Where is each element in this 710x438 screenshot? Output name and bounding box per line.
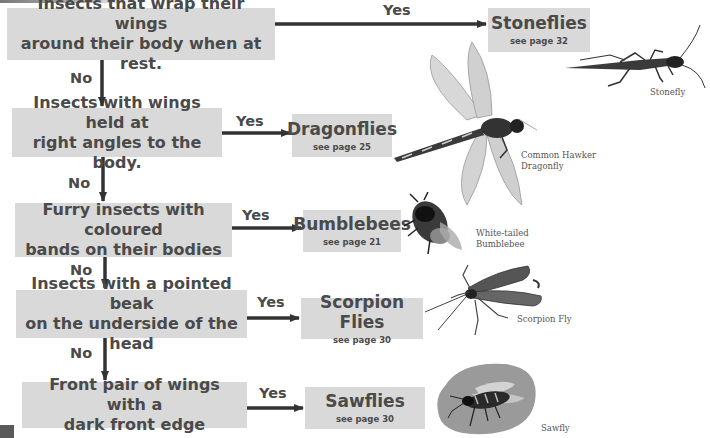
bumblebee-caption-line2: Bumblebee (476, 239, 529, 250)
answer-box-scorpion-flies: Scorpion Flies see page 30 (301, 298, 423, 339)
question-2-line1: Insects with wings held at (18, 93, 216, 133)
question-box-2: Insects with wings held at right angles … (12, 108, 222, 157)
sawfly-illustration (430, 356, 540, 436)
answer-page-ref: see page 30 (333, 334, 391, 346)
bumblebee-caption: White-tailed Bumblebee (476, 228, 529, 250)
scorpion-fly-illustration (423, 260, 548, 340)
yes-label-2: Yes (236, 113, 264, 129)
sawfly-caption: Sawfly (541, 423, 570, 434)
answer-title: Dragonflies (287, 119, 397, 139)
question-box-3: Furry insects with coloured bands on the… (15, 203, 232, 257)
question-box-1: Insects that wrap their wings around the… (7, 8, 275, 60)
stonefly-illustration (560, 20, 710, 100)
yes-label-3: Yes (242, 207, 270, 223)
no-label-4: No (70, 345, 92, 361)
answer-title: Scorpion Flies (301, 292, 423, 332)
scorpion-fly-caption: Scorpion Fly (517, 314, 572, 325)
question-3-line2: bands on their bodies (25, 240, 222, 260)
dragonfly-illustration (392, 40, 542, 210)
answer-page-ref: see page 30 (336, 413, 394, 425)
yes-label-1: Yes (383, 2, 411, 18)
stonefly-caption: Stonefly (650, 87, 685, 98)
question-4-line2: on the underside of the head (22, 314, 241, 354)
question-4-line1: Insects with a pointed beak (22, 274, 241, 314)
question-5-line1: Front pair of wings with a (28, 375, 241, 415)
bumblebee-caption-line1: White-tailed (476, 228, 529, 239)
dragonfly-caption-line2: Dragonfly (521, 161, 596, 172)
yes-label-5: Yes (259, 385, 287, 401)
question-1-line2: around their body when at rest. (13, 34, 269, 74)
question-2-line2: right angles to the body. (18, 133, 216, 173)
no-label-2: No (68, 175, 90, 191)
question-1-line1: Insects that wrap their wings (13, 0, 269, 34)
answer-box-dragonflies: Dragonflies see page 25 (292, 114, 392, 157)
dragonfly-caption: Common Hawker Dragonfly (521, 150, 596, 172)
bumblebee-illustration (400, 192, 470, 262)
answer-title: Bumblebees (293, 214, 411, 234)
no-label-1: No (70, 70, 92, 86)
no-label-3: No (70, 262, 92, 278)
question-5-line2: dark front edge (64, 415, 205, 435)
dragonfly-caption-line1: Common Hawker (521, 150, 596, 161)
question-box-4: Insects with a pointed beak on the under… (16, 290, 247, 338)
page-corner-tab (0, 425, 14, 438)
question-3-line1: Furry insects with coloured (21, 200, 226, 240)
yes-label-4: Yes (257, 294, 285, 310)
question-box-5: Front pair of wings with a dark front ed… (22, 382, 247, 428)
answer-page-ref: see page 25 (313, 141, 371, 153)
answer-page-ref: see page 21 (323, 236, 381, 248)
answer-title: Sawflies (325, 391, 405, 411)
answer-box-bumblebees: Bumblebees see page 21 (303, 210, 401, 252)
answer-box-sawflies: Sawflies see page 30 (305, 387, 425, 429)
